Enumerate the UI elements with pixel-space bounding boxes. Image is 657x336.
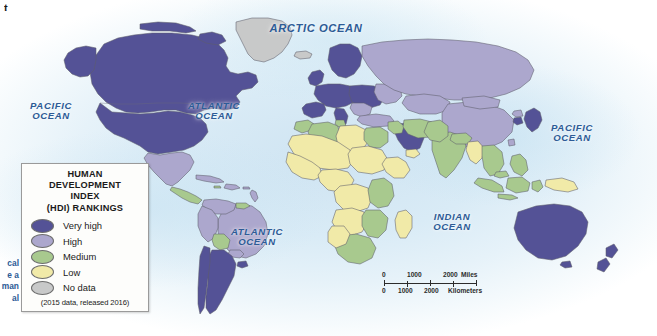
legend-item-medium[interactable]: Medium: [26, 249, 144, 265]
country-north-korea: [512, 110, 523, 117]
island-taiwan: [508, 139, 515, 146]
margin-line-4: al: [0, 293, 19, 305]
scale-miles-unit: Miles: [461, 271, 478, 278]
country-alaska: [64, 46, 96, 77]
legend-swatch-medium: [31, 250, 54, 264]
country-tasmania: [560, 261, 572, 268]
country-australia: [514, 204, 588, 260]
legend-label-high: High: [63, 236, 82, 247]
region-africa: [286, 120, 412, 264]
country-papua-new-guinea: [545, 178, 578, 192]
country-norway-sweden-finland: [328, 44, 362, 78]
country-zimbabwe-mozambique: [362, 210, 388, 238]
island-hispaniola: [224, 184, 240, 190]
ocean-label-atlantic-north: ATLANTIC OCEAN: [176, 101, 252, 122]
legend-title: HUMAN DEVELOPMENT INDEX (HDI) RANKINGS: [26, 169, 144, 214]
country-indonesia-sumatra: [474, 178, 504, 192]
scale-km-tick-0: 0: [382, 287, 386, 294]
country-dr-congo: [334, 184, 372, 212]
scale-bar-graphic: [382, 280, 494, 286]
island-cuba: [196, 175, 224, 183]
scale-miles-tick-0: 0: [382, 271, 386, 278]
country-malaysia: [494, 171, 509, 178]
country-argentina: [206, 250, 236, 314]
country-egypt: [364, 127, 388, 148]
scale-km-tick-2000: 2000: [424, 287, 439, 294]
map-legend: HUMAN DEVELOPMENT INDEX (HDI) RANKINGS V…: [21, 163, 149, 312]
legend-swatch-no-data: [31, 281, 54, 295]
margin-line-1: cal: [0, 258, 19, 270]
ocean-label-pacific-east: PACIFIC OCEAN: [537, 123, 607, 144]
country-indonesia-borneo: [506, 177, 530, 193]
country-mexico: [144, 152, 194, 186]
canadian-arctic-islands: [140, 22, 196, 33]
ocean-label-indian: INDIAN OCEAN: [417, 212, 487, 233]
legend-label-no-data: No data: [63, 282, 96, 293]
legend-swatch-very-high: [31, 219, 54, 233]
legend-item-low[interactable]: Low: [26, 264, 144, 280]
country-kenya-tanzania: [368, 178, 394, 208]
margin-line-2: e a: [0, 270, 19, 282]
margin-cutoff-text: cal e a man al: [0, 258, 19, 304]
margin-line-3: man: [0, 281, 19, 293]
map-figure: t .vh{fill:#545296;} .hi{fill:#aca7cd;} …: [0, 0, 657, 336]
country-sudan-chad: [348, 146, 388, 174]
country-uk-ireland: [308, 70, 324, 86]
scale-km-tick-1000: 1000: [398, 287, 413, 294]
country-philippines: [510, 154, 528, 176]
scale-km-labels: 0 1000 2000 Kilometers: [382, 287, 494, 295]
scale-miles-tick-1000: 1000: [407, 271, 422, 278]
legend-item-no-data[interactable]: No data: [26, 280, 144, 296]
legend-swatch-low: [31, 265, 54, 279]
legend-data-note: (2015 data, released 2016): [26, 298, 144, 307]
scale-miles-tick-2000: 2000: [443, 271, 458, 278]
region-central-america: [170, 187, 202, 204]
country-myanmar: [466, 141, 484, 164]
legend-label-medium: Medium: [63, 251, 96, 262]
ocean-label-pacific-west: PACIFIC OCEAN: [16, 101, 86, 122]
country-iraq-syria: [388, 121, 404, 134]
legend-item-very-high[interactable]: Very high: [26, 218, 144, 234]
country-ethiopia-somalia: [382, 157, 410, 178]
island-jamaica: [214, 186, 221, 188]
country-madagascar: [395, 210, 412, 238]
country-pakistan-afghanistan: [424, 120, 448, 142]
country-iberia: [302, 102, 326, 118]
region-south-america: [198, 199, 268, 314]
scale-bar: 0 1000 2000 Miles 0 1000 2000 Kilometers: [382, 271, 494, 295]
scale-km-unit: Kilometers: [448, 287, 482, 294]
scale-miles-labels: 0 1000 2000 Miles: [382, 271, 494, 279]
lesser-antilles: [250, 190, 258, 202]
country-new-zealand: [606, 244, 618, 258]
country-south-korea: [513, 117, 523, 125]
island-puerto-rico: [243, 187, 250, 189]
country-yemen: [406, 149, 420, 158]
ocean-label-atlantic-south: ATLANTIC OCEAN: [219, 227, 295, 248]
ocean-label-arctic: ARCTIC OCEAN: [256, 22, 376, 34]
country-new-zealand-south: [597, 258, 610, 272]
country-sulawesi: [532, 180, 543, 192]
legend-item-high[interactable]: High: [26, 233, 144, 249]
legend-swatch-high: [31, 234, 54, 248]
legend-label-very-high: Very high: [63, 220, 102, 231]
iceland: [294, 51, 312, 59]
legend-label-low: Low: [63, 267, 80, 278]
country-uruguay: [237, 261, 248, 268]
country-indonesia-java: [498, 194, 518, 200]
